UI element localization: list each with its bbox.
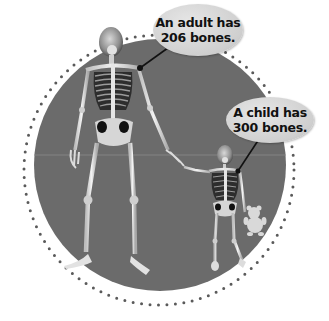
callout-child-line2: 300 bones. [233, 120, 308, 135]
callout-adult-line1: An adult has [156, 15, 241, 30]
skeleton-illustration: An adult has 206 bones. A child has 300 … [0, 0, 329, 321]
callout-adult-bubble: An adult has 206 bones. [153, 4, 243, 56]
callout-child-bubble: A child has 300 bones. [226, 97, 314, 143]
callout-child-line1: A child has [233, 105, 308, 120]
callout-child-text: A child has 300 bones. [233, 105, 308, 135]
callout-adult-line2: 206 bones. [156, 30, 241, 45]
illustration-canvas [0, 0, 329, 321]
callout-adult-text: An adult has 206 bones. [156, 15, 241, 45]
background-disc [34, 39, 286, 291]
